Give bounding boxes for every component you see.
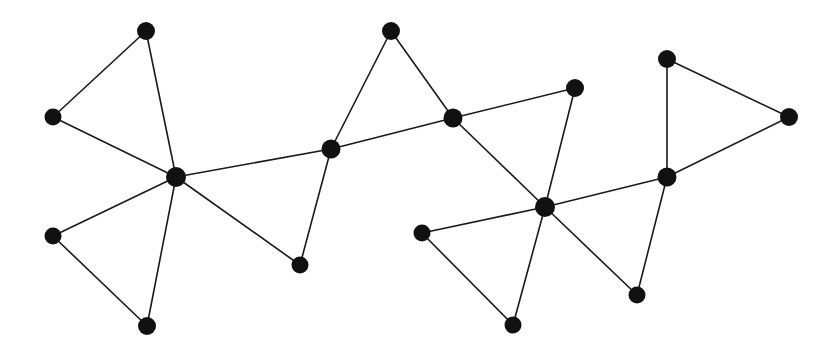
graph-edge [176,177,300,265]
edge-layer [53,31,789,326]
graph-node [166,167,186,187]
graph-node [780,108,798,126]
graph-edge [545,88,575,207]
graph-edge [53,117,176,177]
graph-edge [667,59,789,117]
graph-node [505,317,522,334]
graph-node [629,287,646,304]
graph-node [566,79,584,97]
graph-edge [667,117,789,177]
graph-edge [300,149,331,265]
graph-node [535,197,555,217]
graph-edge [513,207,545,325]
graph-edge [453,88,575,118]
graph-edge [146,31,176,177]
graph-edge [545,177,667,207]
graph-edge [53,177,176,236]
graph-node [322,140,341,159]
graph-node [45,228,62,245]
graph-edge [422,233,513,325]
graph-edge [331,31,391,149]
graph-figure [0,0,836,346]
graph-edge [422,207,545,233]
graph-edge [331,118,453,149]
graph-edge [53,236,147,326]
graph-node [45,109,62,126]
graph-edge [147,177,176,326]
graph-node [658,50,676,68]
graph-node [658,168,677,187]
node-layer [45,22,799,335]
graph-edge [391,31,453,118]
graph-node [382,22,400,40]
graph-node [414,225,431,242]
graph-edge [453,118,545,207]
graph-edge [637,177,667,295]
graph-node [138,317,156,335]
graph-node [137,22,155,40]
graph-node [444,109,463,128]
graph-node [292,257,309,274]
graph-edge [176,149,331,177]
network-graph-canvas [0,0,836,346]
graph-edge [53,31,146,117]
graph-edge [545,207,637,295]
